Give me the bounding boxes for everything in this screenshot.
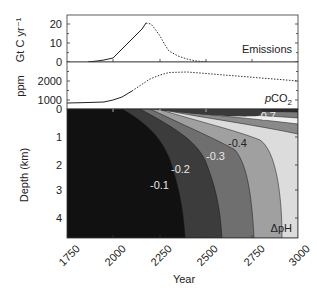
x-tick-3000: 3000 — [286, 242, 312, 268]
x-tick-2500: 2500 — [194, 242, 220, 268]
contour-label-0.1: -0.1 — [150, 179, 169, 191]
depth-tick-1: 1 — [56, 131, 62, 143]
contour-label-0.2: -0.2 — [171, 163, 190, 175]
x-tick-2250: 2250 — [148, 242, 174, 268]
figure: 0 10 20 Gt C yr⁻¹ Emissions 1000 2000 pp… — [0, 0, 317, 295]
x-tick-1750: 1750 — [56, 242, 82, 268]
depth-tick-0: 0 — [56, 103, 62, 115]
contour-label-0.3: -0.3 — [206, 150, 225, 162]
x-tick-2750: 2750 — [241, 242, 267, 268]
x-axis-label-year: Year — [173, 273, 196, 285]
emissions-panel: 0 10 20 Gt C yr⁻¹ Emissions — [14, 15, 298, 68]
y-axis-label-emissions: Gt C yr⁻¹ — [14, 17, 26, 62]
y-tick-2000: 2000 — [38, 75, 62, 87]
y-axis-label-ppm: ppm — [14, 75, 26, 96]
depth-tick-2: 2 — [56, 159, 62, 171]
depth-tick-4: 4 — [56, 212, 62, 224]
x-tick-2000: 2000 — [102, 242, 128, 268]
y-tick-20: 20 — [50, 18, 62, 30]
y-tick-10: 10 — [50, 37, 62, 49]
pco2-panel: 1000 2000 ppm pCO2 — [14, 62, 298, 109]
contour-label-0.7: -0.7 — [257, 110, 276, 122]
delta-ph-annotation: ΔpH — [271, 222, 292, 234]
y-axis-label-depth: Depth (km) — [18, 148, 30, 202]
depth-tick-3: 3 — [56, 184, 62, 196]
y-tick-0: 0 — [56, 56, 62, 68]
delta-ph-panel: 0 1 2 3 4 Depth (km) -0.1 -0.2 -0.3 -0.4… — [18, 103, 312, 285]
contour-label-0.4: -0.4 — [228, 137, 247, 149]
emissions-annotation: Emissions — [242, 43, 293, 55]
